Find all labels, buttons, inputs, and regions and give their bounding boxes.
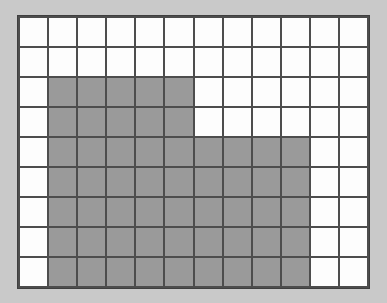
- grid-cell-r7-c6: [165, 198, 192, 226]
- grid-cell-r1-c3: [78, 18, 105, 46]
- grid-cell-r3-c7: [195, 78, 222, 106]
- grid-cell-r4-c2: [49, 108, 76, 136]
- grid-cell-r5-c4: [107, 138, 134, 166]
- grid-cell-r5-c8: [224, 138, 251, 166]
- grid-cell-r2-c11: [311, 48, 338, 76]
- grid-cell-r3-c9: [253, 78, 280, 106]
- grid-cell-r4-c7: [195, 108, 222, 136]
- grid-cell-r5-c1: [20, 138, 47, 166]
- grid-cell-r6-c6: [165, 168, 192, 196]
- grid-cell-r1-c5: [136, 18, 163, 46]
- grid-cell-r3-c1: [20, 78, 47, 106]
- grid-cell-r7-c1: [20, 198, 47, 226]
- grid-cell-r4-c11: [311, 108, 338, 136]
- grid-cell-r8-c2: [49, 228, 76, 256]
- grid-cell-r4-c6: [165, 108, 192, 136]
- grid-cell-r7-c5: [136, 198, 163, 226]
- grid-cell-r1-c2: [49, 18, 76, 46]
- grid-cell-r9-c10: [282, 258, 309, 286]
- grid-cell-r2-c7: [195, 48, 222, 76]
- grid-cell-r9-c2: [49, 258, 76, 286]
- grid-cell-r6-c2: [49, 168, 76, 196]
- grid-cell-r9-c4: [107, 258, 134, 286]
- grid-cell-r3-c2: [49, 78, 76, 106]
- grid-cell-r8-c9: [253, 228, 280, 256]
- grid-cell-r2-c6: [165, 48, 192, 76]
- grid-cell-r9-c12: [340, 258, 367, 286]
- grid-cell-r2-c9: [253, 48, 280, 76]
- grid-cell-r1-c10: [282, 18, 309, 46]
- grid-cell-r4-c1: [20, 108, 47, 136]
- grid-cell-r3-c11: [311, 78, 338, 106]
- grid-cell-r6-c9: [253, 168, 280, 196]
- figure-canvas: [0, 0, 387, 303]
- grid-cell-r9-c6: [165, 258, 192, 286]
- grid-cell-r3-c3: [78, 78, 105, 106]
- grid-cell-r4-c10: [282, 108, 309, 136]
- grid-cell-r6-c4: [107, 168, 134, 196]
- grid-cell-r5-c2: [49, 138, 76, 166]
- grid-cell-r8-c3: [78, 228, 105, 256]
- grid-cell-r7-c9: [253, 198, 280, 226]
- grid-cell-r1-c7: [195, 18, 222, 46]
- grid-cell-r5-c6: [165, 138, 192, 166]
- grid-cell-r6-c11: [311, 168, 338, 196]
- grid-cell-r7-c7: [195, 198, 222, 226]
- grid-cell-r1-c11: [311, 18, 338, 46]
- grid-cell-r8-c5: [136, 228, 163, 256]
- grid-cell-r9-c11: [311, 258, 338, 286]
- grid-cell-r2-c12: [340, 48, 367, 76]
- shaded-grid: [17, 15, 370, 289]
- grid-cell-r3-c5: [136, 78, 163, 106]
- grid-cell-r3-c8: [224, 78, 251, 106]
- grid-cell-r2-c4: [107, 48, 134, 76]
- grid-cell-r1-c8: [224, 18, 251, 46]
- grid-cell-r7-c3: [78, 198, 105, 226]
- grid-cell-r2-c2: [49, 48, 76, 76]
- grid-cell-r1-c12: [340, 18, 367, 46]
- grid-cell-r7-c8: [224, 198, 251, 226]
- grid-cell-r9-c8: [224, 258, 251, 286]
- grid-cell-r4-c9: [253, 108, 280, 136]
- grid-cell-r2-c1: [20, 48, 47, 76]
- grid-cell-r4-c3: [78, 108, 105, 136]
- grid-cell-r6-c12: [340, 168, 367, 196]
- grid-cell-r3-c12: [340, 78, 367, 106]
- grid-cell-r4-c8: [224, 108, 251, 136]
- grid-cell-r5-c9: [253, 138, 280, 166]
- grid-cell-r6-c1: [20, 168, 47, 196]
- grid-cell-r8-c12: [340, 228, 367, 256]
- grid-cell-r4-c12: [340, 108, 367, 136]
- grid-cell-r6-c7: [195, 168, 222, 196]
- grid-cell-r7-c2: [49, 198, 76, 226]
- grid-cell-r4-c4: [107, 108, 134, 136]
- grid-cell-r1-c6: [165, 18, 192, 46]
- grid-cell-r9-c9: [253, 258, 280, 286]
- grid-cell-r8-c6: [165, 228, 192, 256]
- grid-cell-r9-c7: [195, 258, 222, 286]
- grid-cell-r3-c4: [107, 78, 134, 106]
- grid-cell-r2-c8: [224, 48, 251, 76]
- grid-cell-r5-c3: [78, 138, 105, 166]
- grid-cell-r7-c12: [340, 198, 367, 226]
- grid-cell-r5-c12: [340, 138, 367, 166]
- grid-cell-r3-c10: [282, 78, 309, 106]
- grid-cell-r7-c4: [107, 198, 134, 226]
- grid-cell-r8-c4: [107, 228, 134, 256]
- grid-cell-r6-c3: [78, 168, 105, 196]
- grid-cell-r9-c5: [136, 258, 163, 286]
- grid-cell-r1-c1: [20, 18, 47, 46]
- grid-cell-r2-c3: [78, 48, 105, 76]
- grid-cell-r5-c10: [282, 138, 309, 166]
- grid-cell-r8-c8: [224, 228, 251, 256]
- grid-cell-r5-c7: [195, 138, 222, 166]
- grid-cell-r1-c9: [253, 18, 280, 46]
- grid-cell-r3-c6: [165, 78, 192, 106]
- grid-cell-r8-c1: [20, 228, 47, 256]
- grid-cell-r8-c10: [282, 228, 309, 256]
- grid-cell-r6-c10: [282, 168, 309, 196]
- grid-cell-r4-c5: [136, 108, 163, 136]
- grid-cell-r8-c7: [195, 228, 222, 256]
- grid-cell-r5-c5: [136, 138, 163, 166]
- grid-cell-r7-c10: [282, 198, 309, 226]
